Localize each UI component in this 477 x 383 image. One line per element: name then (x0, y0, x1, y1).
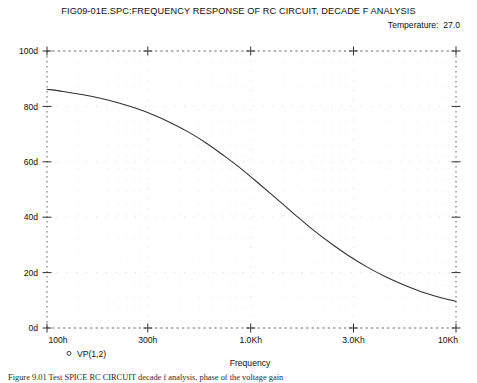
y-tick-label: 20d (24, 268, 39, 278)
grid-horizontal (47, 106, 456, 272)
y-tick-label: 100d (19, 46, 38, 56)
tick-marks (43, 47, 461, 333)
y-tick-labels: 100d 80d 60d 40d 20d 0d (19, 46, 38, 333)
figure-caption-clip: Figure 9.01 Test SPICE RC CIRCUIT decade… (0, 373, 477, 383)
figure-caption: Figure 9.01 Test SPICE RC CIRCUIT decade… (8, 373, 283, 382)
grid-vertical-minor (78, 51, 448, 328)
x-tick-label: 3.0Kh (342, 335, 365, 345)
x-axis-title: Frequency (230, 358, 271, 368)
grid-vertical (148, 51, 354, 328)
y-tick-label: 0d (28, 323, 38, 333)
y-tick-label: 80d (24, 102, 39, 112)
legend-marker-circle-icon (67, 351, 71, 355)
legend-label-vp-1-2: VP(1,2) (77, 349, 106, 359)
chart-container: FIG09-01E.SPC:FREQUENCY RESPONSE OF RC C… (0, 0, 477, 383)
x-tick-labels: 100h 300h 1.0Kh 3.0Kh 10Kh (48, 335, 458, 345)
y-tick-label: 40d (24, 212, 39, 222)
x-tick-label: 10Kh (438, 335, 458, 345)
x-tick-label: 300h (138, 335, 157, 345)
y-tick-label: 60d (24, 157, 39, 167)
x-tick-label: 1.0Kh (239, 335, 262, 345)
plot-svg: 100d 80d 60d 40d 20d 0d 100h 300h 1.0Kh … (0, 0, 477, 383)
data-series-vp-1-2 (47, 89, 456, 301)
legend: VP(1,2) (67, 349, 106, 359)
plot-frame (47, 51, 456, 328)
x-tick-label: 100h (48, 335, 67, 345)
